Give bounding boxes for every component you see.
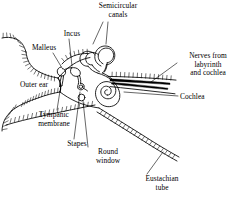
ear-anatomy-diagram: .ln { fill:none; stroke:#000; stroke-wid… (0, 0, 237, 201)
label-semicircular-canals: Semicircular canals (72, 2, 164, 19)
leader-tympanic-membrane (57, 91, 60, 110)
label-round-window: Round window (88, 148, 128, 165)
stapes-ossicle (78, 83, 88, 91)
incus-ossicle (70, 68, 80, 84)
leader-malleus (53, 53, 62, 68)
cochlea-shape (96, 73, 120, 107)
label-nerves-from-labyrinth-and-cochlea: Nerves from labyrinth and cochlea (179, 52, 237, 78)
label-eustachian-tube: Eustachian tube (135, 175, 189, 192)
label-cochlea: Cochlea (180, 93, 224, 102)
leader-cochlea (124, 92, 178, 96)
label-tympanic-membrane: Tympanic membrane (26, 111, 82, 128)
leader-incus (69, 39, 72, 66)
outer-ear-upper-wall (2, 33, 58, 81)
label-outer-ear: Outer ear (7, 81, 61, 90)
auditory-nerve-bundle (108, 72, 176, 94)
semicircular-canals-shape (80, 46, 115, 73)
label-incus: Incus (50, 30, 94, 39)
label-malleus: Malleus (20, 44, 68, 53)
leader-eustachian-tube (147, 152, 163, 174)
leader-semicircular-canals-a (93, 22, 103, 44)
leader-semicircular-canals-b (106, 22, 108, 44)
